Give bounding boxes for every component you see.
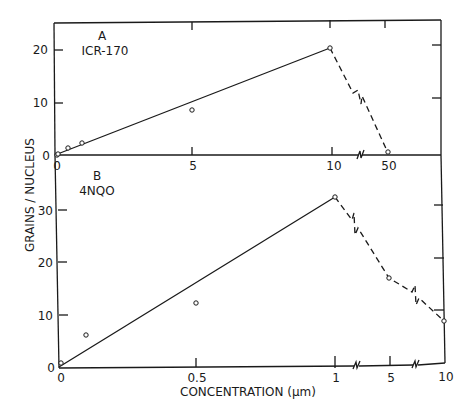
- chart-figure: A ICR-170 B 4NQO 20 10 0 0 5 10 50 30 20…: [0, 0, 469, 414]
- data-point: [328, 46, 332, 50]
- b-x-tick: 10: [438, 370, 453, 384]
- panel-a-decline-line: [330, 48, 388, 153]
- data-point: [56, 152, 60, 156]
- axis-break-icon: [357, 150, 364, 159]
- data-point: [387, 276, 391, 280]
- a-y-tick: 0: [42, 149, 50, 163]
- b-x-tick: 5: [387, 371, 395, 385]
- data-point: [84, 333, 88, 337]
- a-x-tick: 10: [326, 159, 341, 173]
- data-point: [386, 150, 390, 154]
- a-x-tick: 50: [381, 159, 396, 173]
- data-point: [333, 195, 337, 199]
- b-x-tick: 0.5: [187, 371, 206, 385]
- panel-b-letter: B: [93, 169, 101, 183]
- b-y-tick: 0: [47, 361, 55, 375]
- panel-a-title: ICR-170: [81, 44, 128, 58]
- data-point: [66, 146, 70, 150]
- panel-b-decline-line: [335, 197, 444, 321]
- b-x-tick: 0: [57, 371, 65, 385]
- axis-break-icon: [353, 361, 360, 369]
- a-y-tick: 10: [33, 96, 48, 110]
- panel-b-fit-line: [59, 197, 335, 367]
- a-x-tick: 0: [53, 159, 61, 173]
- data-point: [442, 319, 446, 323]
- x-axis-title: CONCENTRATION (µm): [180, 385, 316, 399]
- panel-a-series: [55, 46, 390, 157]
- y-axis-title: GRAINS / NUCLEUS: [23, 138, 37, 252]
- data-point: [59, 361, 63, 365]
- panel-a-frame: [54, 20, 441, 159]
- panel-a-fit-line: [55, 48, 330, 155]
- b-y-tick: 10: [38, 309, 53, 323]
- panel-b-series: [59, 195, 446, 367]
- panel-a-letter: A: [98, 29, 107, 43]
- b-y-tick: 20: [38, 256, 53, 270]
- data-point: [80, 141, 84, 145]
- a-y-tick: 20: [33, 43, 48, 57]
- b-y-tick: 30: [38, 204, 53, 218]
- a-x-tick: 5: [189, 159, 197, 173]
- axis-break-icon: [412, 360, 419, 368]
- b-x-tick: 1: [332, 371, 340, 385]
- data-point: [190, 108, 194, 112]
- panel-b-title: 4NQO: [79, 184, 115, 198]
- data-point: [194, 301, 198, 305]
